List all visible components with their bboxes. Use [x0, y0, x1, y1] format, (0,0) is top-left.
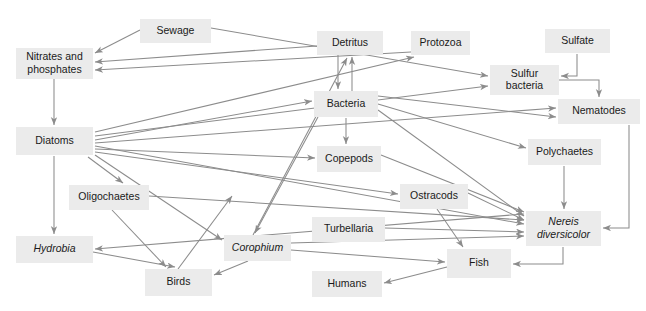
node-corophium[interactable]: Corophium	[224, 235, 291, 261]
edge-fish-to-humans	[384, 267, 447, 283]
node-nematodes[interactable]: Nematodes	[558, 99, 640, 124]
edge-oligochaetes-to-birds	[112, 210, 166, 267]
node-sulfate[interactable]: Sulfate	[545, 29, 610, 53]
node-label-sulfur_bacteria: Sulfur	[511, 67, 539, 79]
edge-birds-to-corophium	[178, 196, 232, 269]
node-hydrobia[interactable]: Hydrobia	[16, 236, 93, 263]
node-turbellaria[interactable]: Turbellaria	[312, 217, 385, 242]
node-sewage[interactable]: Sewage	[140, 19, 211, 43]
node-sulfur_bacteria[interactable]: Sulfurbacteria	[490, 65, 559, 95]
edge-ostracods-to-fish	[437, 209, 463, 247]
node-humans[interactable]: Humans	[312, 271, 382, 297]
node-label-turbellaria: Turbellaria	[324, 222, 373, 234]
node-oligochaetes[interactable]: Oligochaetes	[69, 185, 149, 210]
node-label-ostracods: Ostracods	[410, 189, 458, 201]
node-label-sulfur_bacteria: bacteria	[506, 79, 544, 91]
node-fish[interactable]: Fish	[447, 249, 511, 278]
edge-sulfate-to-sulfur_bacteria	[561, 54, 577, 76]
node-label-birds: Birds	[167, 275, 191, 287]
node-label-oligochaetes: Oligochaetes	[78, 190, 139, 202]
edge-nereis-to-fish	[513, 247, 563, 264]
edge-hydrobia-to-birds	[93, 252, 175, 267]
node-nitrates[interactable]: Nitrates andphosphates	[16, 48, 93, 79]
food-web-diagram: SewageNitrates andphosphatesDetritusProt…	[0, 0, 646, 311]
node-label-sulfate: Sulfate	[561, 34, 594, 46]
node-copepods[interactable]: Copepods	[317, 146, 381, 172]
node-diatoms[interactable]: Diatoms	[16, 127, 93, 155]
node-detritus[interactable]: Detritus	[317, 31, 383, 55]
node-label-humans: Humans	[327, 277, 366, 289]
node-label-nereis: diversicolor	[537, 228, 591, 240]
node-label-diatoms: Diatoms	[35, 134, 74, 146]
node-label-hydrobia: Hydrobia	[33, 242, 75, 254]
node-label-copepods: Copepods	[325, 152, 373, 164]
node-polychaetes[interactable]: Polychaetes	[528, 139, 601, 165]
node-nereis[interactable]: Nereisdiversicolor	[526, 211, 601, 246]
node-birds[interactable]: Birds	[145, 269, 212, 296]
node-label-fish: Fish	[469, 256, 489, 268]
edge-turbellaria-to-nereis	[385, 228, 524, 232]
node-label-bacteria: Bacteria	[327, 97, 366, 109]
edge-nematodes-to-nereis	[603, 125, 629, 228]
node-label-sewage: Sewage	[157, 24, 195, 36]
edge-sewage-to-nitrates	[95, 30, 140, 53]
node-label-detritus: Detritus	[332, 36, 368, 48]
edge-sulfur_bacteria-to-nematodes	[559, 80, 599, 97]
edge-corophium-to-fish	[291, 250, 445, 262]
node-label-nematodes: Nematodes	[572, 104, 626, 116]
node-bacteria[interactable]: Bacteria	[314, 91, 378, 117]
node-protozoa[interactable]: Protozoa	[411, 31, 470, 55]
node-ostracods[interactable]: Ostracods	[400, 184, 468, 209]
node-label-protozoa: Protozoa	[419, 36, 461, 48]
node-label-corophium: Corophium	[232, 241, 284, 253]
node-label-nereis: Nereis	[548, 215, 579, 227]
edge-corophium-to-birds	[214, 261, 248, 275]
food-web-canvas: SewageNitrates andphosphatesDetritusProt…	[0, 0, 646, 311]
node-label-nitrates: Nitrates and	[26, 50, 83, 62]
edge-nereis-to-hydrobia	[95, 214, 524, 249]
edge-bacteria-to-nematodes	[378, 96, 556, 117]
node-label-nitrates: phosphates	[27, 63, 81, 75]
node-label-polychaetes: Polychaetes	[536, 145, 593, 157]
